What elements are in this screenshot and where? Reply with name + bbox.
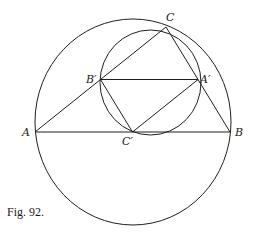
- figure-caption: Fig. 92.: [7, 205, 44, 219]
- geometry-diagram: A B C B′ A′ C′ Fig. 92.: [0, 0, 255, 238]
- label-a: A: [21, 126, 30, 139]
- nine-point-circle: [100, 30, 201, 135]
- label-c: C: [166, 11, 175, 24]
- medial-side-aprime-cprime: [133, 80, 199, 133]
- label-a-prime: A′: [199, 73, 211, 86]
- circumcircle: [35, 19, 231, 225]
- label-b: B: [234, 126, 243, 139]
- label-b-prime: B′: [85, 73, 97, 86]
- figure-92: A B C B′ A′ C′ Fig. 92.: [0, 0, 255, 238]
- label-c-prime: C′: [122, 135, 133, 148]
